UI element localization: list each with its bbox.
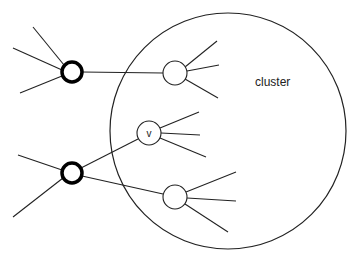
node-circle-icon: [163, 185, 187, 209]
node-circle-icon: [163, 61, 187, 85]
edge-ext-bottom-to-v: [81, 139, 138, 168]
cluster-node-v: v: [137, 112, 206, 157]
cluster-label: cluster: [255, 75, 290, 89]
external-node-top-stubs: [13, 27, 64, 93]
edge-ext-bottom-to-bottom: [82, 176, 163, 194]
cluster-node-bottom: [163, 172, 236, 232]
bold-node-icon: [62, 163, 82, 183]
external-node-bottom: [13, 155, 82, 217]
cluster-node-top: [163, 41, 219, 98]
node-v-label: v: [147, 128, 152, 139]
edge-ext-top-to-top: [82, 72, 163, 73]
external-node-bottom-stubs: [13, 155, 63, 217]
bold-node-icon: [62, 62, 82, 82]
cluster-diagram: cluster: [0, 0, 357, 260]
external-node-top: [13, 27, 82, 93]
